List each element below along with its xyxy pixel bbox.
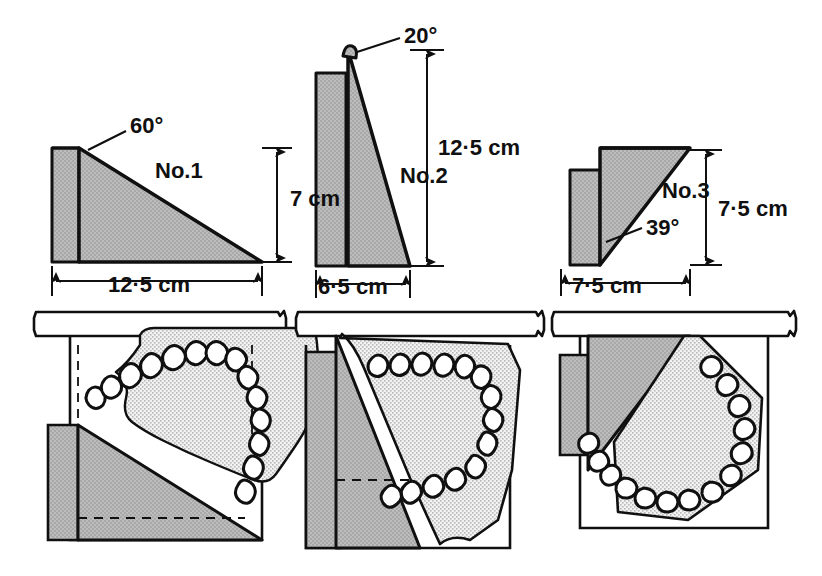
- wedge-no2-apex-tab: [343, 46, 357, 58]
- wedge-no3-name-label: No.3: [662, 178, 710, 204]
- dim-no2-height-label: 12·5 cm: [438, 135, 520, 161]
- wedge-no1-side-face: [52, 148, 79, 262]
- wedge-no1-group: [52, 131, 262, 262]
- wedge-no1-angle-label: 60°: [130, 113, 163, 139]
- dim-no2-base-label: 6·5 cm: [318, 274, 388, 300]
- plan-no2-group: [296, 311, 544, 548]
- wedge-no2-name-label: No.2: [400, 163, 448, 189]
- dim-no3-height-label: 7·5 cm: [718, 196, 788, 222]
- technical-illustration: 60° No.1 7 cm 12·5 cm 20° No.2 12·5 cm 6…: [0, 0, 822, 576]
- wedge-no3-group: [570, 148, 690, 265]
- plan-no3-group: [552, 311, 796, 528]
- wedge-no3-body: [600, 148, 690, 265]
- plan-no3-table-edge: [552, 311, 796, 336]
- dim-no1-base-label: 12·5 cm: [108, 272, 190, 298]
- plan-no2-table-edge: [296, 311, 544, 336]
- dimension-no1-height: [262, 148, 292, 262]
- wedge-no2-side-face: [316, 73, 346, 266]
- wedge-no2-group: [316, 38, 410, 266]
- wedge-no1-angle-leader: [88, 131, 126, 150]
- dim-no3-base-label: 7·5 cm: [572, 273, 642, 299]
- wedge-no1-name-label: No.1: [155, 158, 203, 184]
- plan-no1-wedge-side: [48, 425, 78, 540]
- plan-no1-group: [34, 311, 318, 540]
- wedge-no3-side-face: [570, 170, 600, 265]
- wedge-no2-angle-leader: [357, 38, 400, 52]
- wedge-no2-angle-label: 20°: [404, 23, 437, 49]
- dim-no1-height-label: 7 cm: [290, 186, 340, 212]
- wedge-no2-body: [348, 50, 410, 266]
- wedge-no3-angle-label: 39°: [646, 215, 679, 241]
